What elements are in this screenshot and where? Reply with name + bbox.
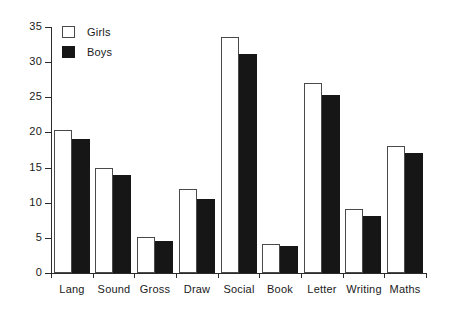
bar-book-girls bbox=[262, 244, 280, 273]
bar-sound-boys bbox=[113, 175, 131, 273]
y-axis-tick-label: 35 bbox=[2, 21, 42, 32]
y-axis-tick bbox=[45, 97, 51, 98]
y-axis-tick bbox=[45, 62, 51, 63]
x-axis-category-label: Writing bbox=[343, 283, 385, 295]
legend-label-girls: Girls bbox=[87, 27, 111, 38]
y-axis-tick-label: 0 bbox=[2, 267, 42, 278]
legend-item-boys: Boys bbox=[62, 44, 112, 60]
x-axis-tick bbox=[301, 273, 302, 278]
x-axis-category-label: Book bbox=[259, 283, 301, 295]
legend-swatch-girls bbox=[62, 26, 75, 38]
x-axis-tick bbox=[384, 273, 385, 278]
bar-letter-boys bbox=[322, 95, 340, 273]
bar-writing-boys bbox=[363, 216, 381, 273]
bar-gross-boys bbox=[155, 241, 173, 273]
chart-legend: Girls Boys bbox=[62, 24, 112, 64]
x-axis-category-label: Sound bbox=[93, 283, 135, 295]
x-axis-tick bbox=[134, 273, 135, 278]
y-axis-tick-label: 25 bbox=[2, 91, 42, 102]
x-axis-category-label: Gross bbox=[134, 283, 176, 295]
y-axis-tick bbox=[45, 27, 51, 28]
bar-sound-girls bbox=[95, 168, 113, 273]
x-axis-tick bbox=[343, 273, 344, 278]
x-axis-category-label: Lang bbox=[51, 283, 93, 295]
bar-lang-girls bbox=[54, 130, 72, 273]
x-axis-tick bbox=[426, 273, 427, 278]
y-axis-tick bbox=[45, 238, 51, 239]
bar-book-boys bbox=[280, 246, 298, 273]
x-axis-line bbox=[51, 273, 426, 274]
bar-writing-girls bbox=[345, 209, 363, 273]
bar-maths-girls bbox=[387, 146, 405, 273]
y-axis-line bbox=[51, 27, 52, 274]
bar-maths-boys bbox=[405, 153, 423, 273]
legend-item-girls: Girls bbox=[62, 24, 112, 40]
bar-draw-girls bbox=[179, 189, 197, 273]
bar-gross-girls bbox=[137, 237, 155, 273]
bar-social-boys bbox=[239, 54, 257, 273]
bar-chart: 05101520253035 LangSoundGrossDrawSocialB… bbox=[0, 0, 451, 309]
y-axis-tick bbox=[45, 168, 51, 169]
x-axis-tick bbox=[51, 273, 52, 278]
bar-draw-boys bbox=[197, 199, 215, 273]
bar-social-girls bbox=[221, 37, 239, 273]
y-axis-tick bbox=[45, 132, 51, 133]
x-axis-category-label: Social bbox=[218, 283, 260, 295]
y-axis-tick-label: 5 bbox=[2, 232, 42, 243]
x-axis-category-label: Draw bbox=[176, 283, 218, 295]
x-axis-category-label: Letter bbox=[301, 283, 343, 295]
x-axis-tick bbox=[259, 273, 260, 278]
legend-label-boys: Boys bbox=[87, 47, 112, 58]
x-axis-tick bbox=[176, 273, 177, 278]
y-axis-tick-label: 20 bbox=[2, 126, 42, 137]
bar-lang-boys bbox=[72, 139, 90, 273]
legend-swatch-boys bbox=[62, 46, 75, 58]
x-axis-tick bbox=[93, 273, 94, 278]
x-axis-tick bbox=[218, 273, 219, 278]
y-axis-tick-label: 30 bbox=[2, 56, 42, 67]
bar-letter-girls bbox=[304, 83, 322, 273]
y-axis-tick-label: 15 bbox=[2, 162, 42, 173]
x-axis-category-label: Maths bbox=[384, 283, 426, 295]
y-axis-tick bbox=[45, 203, 51, 204]
y-axis-tick-label: 10 bbox=[2, 197, 42, 208]
